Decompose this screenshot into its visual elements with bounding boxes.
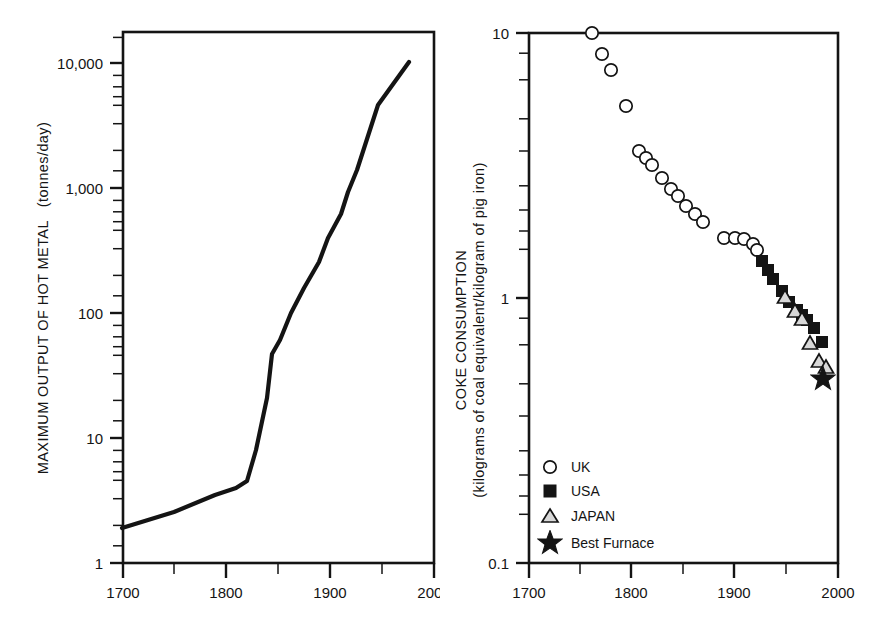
left-plot-frame <box>123 32 434 563</box>
legend: UK USA JAPAN Best Furnace <box>538 459 654 553</box>
left-xtick-label-1700: 1700 <box>106 584 139 601</box>
right-xtick-label-2000: 2000 <box>821 584 854 601</box>
legend-label-usa: USA <box>571 483 600 499</box>
legend-open-circle-icon <box>544 461 556 473</box>
series-uk-markers <box>586 27 763 256</box>
series-japan-markers <box>778 290 834 373</box>
left-ytick-label-1000: 1,000 <box>65 180 103 197</box>
left-ytick-label-10: 10 <box>86 430 103 447</box>
right-xtick-label-1700: 1700 <box>512 584 545 601</box>
legend-item-japan[interactable]: JAPAN <box>542 508 615 524</box>
left-ytick-label-100: 100 <box>78 305 103 322</box>
right-y-axis-title-unit: (kilograms of coal equivalent/kilogram o… <box>471 162 487 498</box>
right-ytick-label-0.1: 0.1 <box>488 555 509 572</box>
left-ytick-label-10000: 10,000 <box>57 55 103 72</box>
right-x-ticks <box>529 563 838 578</box>
left-y-axis-title: MAXIMUM OUTPUT OF HOT METAL (tonnes/day) <box>35 122 51 474</box>
right-ytick-label-1: 1 <box>501 290 509 307</box>
left-ytick-label-1: 1 <box>95 555 103 572</box>
legend-label-japan: JAPAN <box>571 508 615 524</box>
legend-item-uk[interactable]: UK <box>544 459 591 475</box>
chart-panel-left: 10,000 1,000 100 10 1 1700 1800 1900 200… <box>0 0 440 624</box>
left-xtick-label-1900: 1900 <box>313 584 346 601</box>
right-xtick-label-1800: 1800 <box>614 584 647 601</box>
legend-filled-square-icon <box>544 485 556 497</box>
right-chart-svg: 10 1 0.1 1700 1800 1900 2000 COKE CONSUM… <box>440 0 877 624</box>
legend-label-uk: UK <box>571 459 591 475</box>
legend-label-best-furnace: Best Furnace <box>571 535 654 551</box>
left-xtick-label-2000: 2000 <box>417 584 440 601</box>
legend-filled-star-icon <box>538 531 562 554</box>
left-y-minor-ticks <box>113 37 123 545</box>
legend-open-triangle-icon <box>542 509 558 522</box>
right-xtick-label-1900: 1900 <box>717 584 750 601</box>
right-y-minor-ticks <box>519 53 529 514</box>
legend-item-usa[interactable]: USA <box>544 483 600 499</box>
left-y-major-ticks <box>110 63 123 563</box>
left-x-ticks <box>123 563 434 578</box>
right-y-axis-title-main: COKE CONSUMPTION <box>453 250 469 410</box>
right-ytick-label-10: 10 <box>492 25 509 42</box>
figure-canvas: 10,000 1,000 100 10 1 1700 1800 1900 200… <box>0 0 877 624</box>
legend-item-best-furnace[interactable]: Best Furnace <box>538 531 654 554</box>
left-y-axis-title-main: MAXIMUM OUTPUT OF HOT METAL <box>35 221 51 475</box>
left-xtick-label-1800: 1800 <box>209 584 242 601</box>
left-series-line <box>122 62 409 528</box>
chart-panel-right: 10 1 0.1 1700 1800 1900 2000 COKE CONSUM… <box>440 0 877 624</box>
left-y-axis-title-unit: (tonnes/day) <box>35 122 51 207</box>
left-chart-svg: 10,000 1,000 100 10 1 1700 1800 1900 200… <box>0 0 440 624</box>
right-y-major-ticks <box>516 33 529 563</box>
